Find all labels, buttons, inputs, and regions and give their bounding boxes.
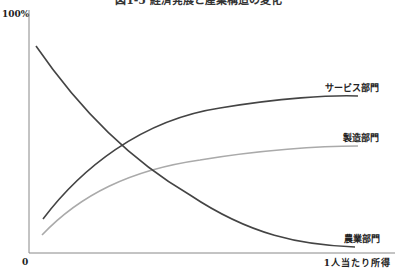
- plot-area: [0, 0, 397, 271]
- manufacturing-label: 製造部門: [343, 131, 379, 144]
- service-label: サービス部門: [325, 81, 379, 94]
- agriculture-label: 農業部門: [344, 232, 380, 245]
- manufacturing-curve: [42, 146, 358, 235]
- agriculture-curve: [36, 46, 355, 247]
